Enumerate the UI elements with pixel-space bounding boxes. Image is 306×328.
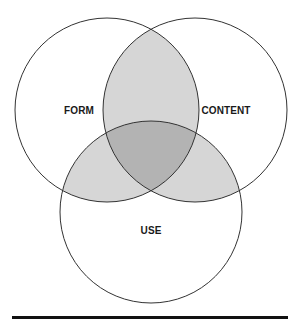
label-content: CONTENT [201,105,250,116]
label-use: USE [141,225,162,236]
label-form: FORM [64,105,94,116]
horizontal-rule [12,316,288,319]
venn-diagram [0,0,306,328]
